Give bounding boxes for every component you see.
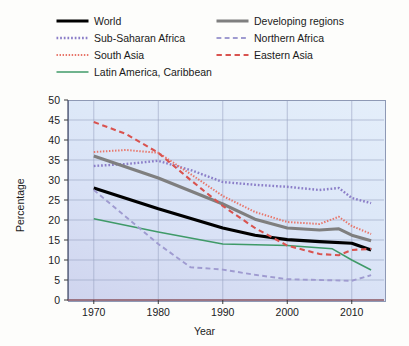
legend-item-world: World xyxy=(56,14,121,28)
y-tick-label: 50 xyxy=(32,94,60,106)
chart-plot-region: 0510152025303540455019701980199020002010… xyxy=(0,88,409,346)
y-axis-title: Percentage xyxy=(14,178,26,232)
legend-line-swatch xyxy=(56,16,89,26)
legend-line-swatch xyxy=(216,16,249,26)
series-line-latin-america-caribbean xyxy=(94,219,371,270)
legend-item-northern-africa: Northern Africa xyxy=(216,31,324,45)
legend-item-sub-saharan-africa: Sub-Saharan Africa xyxy=(56,31,185,45)
legend-item-south-asia: South Asia xyxy=(56,48,144,62)
legend-line-swatch xyxy=(216,33,249,43)
x-tick-label: 1970 xyxy=(74,306,114,318)
series-line-eastern-asia xyxy=(94,122,371,255)
legend-line-swatch xyxy=(56,67,89,77)
y-tick-label: 40 xyxy=(32,134,60,146)
legend-item-label: Northern Africa xyxy=(254,33,324,43)
y-tick-label: 35 xyxy=(32,154,60,166)
legend-item-eastern-asia: Eastern Asia xyxy=(216,48,313,62)
legend-line-swatch xyxy=(56,50,89,60)
chart-figure: WorldSub-Saharan AfricaSouth AsiaLatin A… xyxy=(0,0,409,346)
legend-item-label: South Asia xyxy=(94,50,144,60)
chart-legend: WorldSub-Saharan AfricaSouth AsiaLatin A… xyxy=(0,0,409,92)
legend-item-label: Eastern Asia xyxy=(254,50,313,60)
legend-item-developing-regions: Developing regions xyxy=(216,14,344,28)
x-tick-label: 2010 xyxy=(332,306,372,318)
legend-item-label: Sub-Saharan Africa xyxy=(94,33,185,43)
y-tick-label: 10 xyxy=(32,254,60,266)
series-line-world xyxy=(94,188,371,250)
x-tick-label: 1990 xyxy=(203,306,243,318)
y-tick-label: 20 xyxy=(32,214,60,226)
x-axis-title: Year xyxy=(0,325,409,337)
series-line-northern-africa xyxy=(94,190,371,281)
y-tick-label: 45 xyxy=(32,114,60,126)
legend-item-latin-america-caribbean: Latin America, Caribbean xyxy=(56,65,212,79)
x-tick-label: 2000 xyxy=(267,306,307,318)
x-tick-label: 1980 xyxy=(138,306,178,318)
y-tick-label: 0 xyxy=(32,294,60,306)
y-tick-label: 15 xyxy=(32,234,60,246)
series-line-sub-saharan-africa xyxy=(94,161,371,203)
legend-item-label: World xyxy=(94,16,121,26)
series-line-developing-regions xyxy=(94,156,371,241)
legend-line-swatch xyxy=(216,50,249,60)
legend-item-label: Developing regions xyxy=(254,16,344,26)
y-tick-label: 25 xyxy=(32,194,60,206)
y-tick-label: 5 xyxy=(32,274,60,286)
y-tick-label: 30 xyxy=(32,174,60,186)
legend-item-label: Latin America, Caribbean xyxy=(94,67,212,77)
legend-line-swatch xyxy=(56,33,89,43)
